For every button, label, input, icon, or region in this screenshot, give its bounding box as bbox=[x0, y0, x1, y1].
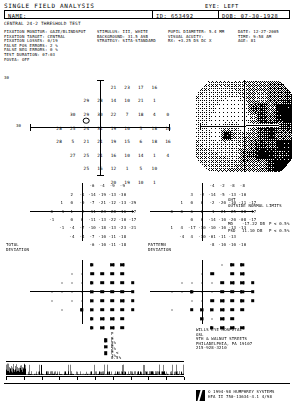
grid-value: 17 bbox=[138, 84, 144, 89]
grid-value: 25 bbox=[84, 166, 90, 171]
probability-symbol bbox=[82, 291, 83, 292]
gaze-tick bbox=[6, 377, 7, 380]
probability-symbol bbox=[121, 317, 125, 321]
probability-symbol bbox=[90, 317, 93, 320]
grid-value: -13 bbox=[98, 218, 106, 223]
grid-value: 16 bbox=[97, 166, 103, 171]
probability-symbol bbox=[111, 326, 114, 329]
grid-value: -10 bbox=[228, 243, 236, 248]
clinic-line: 215-928-3210 bbox=[196, 346, 252, 351]
probability-symbol bbox=[100, 326, 103, 329]
probability-symbol bbox=[90, 281, 93, 284]
parameter-line: AGE: 81 bbox=[238, 39, 279, 44]
probability-symbol bbox=[82, 273, 83, 274]
eye-indicator: EYE: LEFT bbox=[205, 3, 239, 9]
grid-value: 28 bbox=[97, 98, 103, 103]
probability-symbol bbox=[90, 272, 94, 276]
grid-value: 5 bbox=[71, 139, 74, 144]
grid-value: -4 bbox=[69, 226, 74, 231]
total-deviation-numeric-plot: -6-4-9-92-1-14-19-13-3010-0-7-21-12-13-2… bbox=[28, 181, 138, 243]
probability-symbol bbox=[212, 291, 213, 292]
probability-symbol bbox=[90, 290, 93, 293]
patient-id-field[interactable]: ID: 653492 bbox=[156, 13, 193, 19]
gaze-trace bbox=[6, 362, 184, 376]
footer-divider bbox=[4, 383, 290, 384]
grayscale-map bbox=[196, 76, 292, 176]
grid-value: 7 bbox=[126, 111, 129, 116]
probability-symbol bbox=[121, 290, 125, 294]
probability-symbol bbox=[71, 273, 72, 274]
probability-symbol bbox=[100, 317, 103, 320]
grid-value: 6 bbox=[139, 139, 142, 144]
probability-symbol bbox=[212, 318, 213, 319]
parameter-line: RX: +3.25 DS DC X bbox=[168, 39, 224, 44]
grid-value: 18 bbox=[152, 125, 158, 130]
probability-symbol bbox=[231, 308, 235, 312]
grid-value: 10 bbox=[124, 125, 130, 130]
probability-symbol bbox=[190, 317, 193, 320]
probability-symbol bbox=[121, 272, 125, 276]
probability-symbol bbox=[111, 290, 115, 294]
divider bbox=[218, 11, 219, 18]
grid-value: -11 bbox=[108, 234, 116, 239]
grid-value: -14 bbox=[208, 192, 216, 197]
page-title: SINGLE FIELD ANALYSIS bbox=[4, 3, 95, 10]
probability-symbol bbox=[210, 308, 213, 311]
probability-symbol bbox=[61, 291, 62, 292]
grid-value: -20 bbox=[218, 201, 226, 206]
grid-value: 0 bbox=[81, 218, 84, 223]
grid-value: 21 bbox=[111, 84, 117, 89]
grid-value: 21 bbox=[97, 139, 103, 144]
grid-value: 31 bbox=[97, 125, 103, 130]
probability-symbol bbox=[80, 308, 83, 311]
grid-value: 10 bbox=[165, 125, 171, 130]
grid-value: -10 bbox=[88, 226, 96, 231]
grid-value: -14 bbox=[88, 192, 96, 197]
probability-symbol bbox=[210, 263, 213, 266]
gaze-tick bbox=[77, 377, 78, 380]
grid-value: 0 bbox=[191, 218, 194, 223]
test-type-line: CENTRAL 24-2 THRESHOLD TEST bbox=[4, 21, 81, 26]
grid-value: -7 bbox=[79, 226, 84, 231]
dob-label: DOB: bbox=[222, 13, 237, 19]
probability-symbol bbox=[241, 308, 245, 312]
test-parameters-column-1: FIXATION MONITOR: GAZE/BLINDSPOTFIXATION… bbox=[4, 30, 86, 62]
psd-probability: P < 0.5% bbox=[269, 229, 289, 234]
legend-swatch bbox=[104, 345, 107, 348]
patient-identity-bar: NAME: ID: 653492 DOB: 07-30-1928 bbox=[4, 10, 290, 19]
patient-dob-field[interactable]: DOB: 07-30-1928 bbox=[222, 13, 278, 19]
probability-symbol bbox=[121, 281, 125, 285]
grid-value: 6 bbox=[191, 209, 194, 214]
grid-value: -21 bbox=[98, 201, 106, 206]
eye-label: EYE: bbox=[205, 3, 220, 9]
gaze-tick bbox=[95, 377, 96, 380]
probability-symbol bbox=[231, 263, 234, 266]
threshold-axis-label-left: 30 bbox=[16, 124, 21, 129]
probability-symbol bbox=[111, 308, 115, 312]
grid-value: 10 bbox=[124, 98, 130, 103]
grid-value: 12 bbox=[111, 166, 117, 171]
grid-value: 19 bbox=[111, 139, 117, 144]
probability-symbol bbox=[181, 291, 182, 292]
grid-value: -30 bbox=[119, 192, 127, 197]
grid-value: -13 bbox=[108, 226, 116, 231]
probability-symbol bbox=[231, 290, 235, 294]
grid-value: 0 bbox=[201, 201, 204, 206]
psd-row: PSD 11.10 DB P < 0.5% bbox=[228, 229, 292, 236]
patient-name-field[interactable]: NAME: bbox=[8, 13, 27, 19]
grid-value: -21 bbox=[129, 226, 137, 231]
grid-value: -8 bbox=[210, 243, 215, 248]
probability-symbol bbox=[121, 299, 124, 302]
eye-value: LEFT bbox=[224, 3, 239, 9]
probability-symbol bbox=[121, 308, 125, 312]
grid-value: 29 bbox=[84, 98, 90, 103]
probability-symbol bbox=[100, 281, 104, 285]
probability-symbol bbox=[210, 272, 214, 276]
probability-symbol bbox=[100, 308, 104, 312]
probability-symbol bbox=[131, 281, 135, 285]
grid-value: 22 bbox=[111, 111, 117, 116]
grid-value: -10 bbox=[198, 234, 206, 239]
grid-value: -13 bbox=[119, 201, 127, 206]
probability-symbol bbox=[210, 299, 214, 303]
grid-value: -10 bbox=[218, 243, 226, 248]
